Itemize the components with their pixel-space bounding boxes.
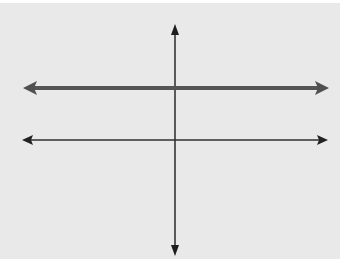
- arrow-down-icon: [171, 245, 179, 256]
- thick-horizontal-line: [23, 81, 329, 95]
- diagram-svg: [0, 0, 340, 259]
- arrow-up-icon: [171, 24, 179, 35]
- diagram-canvas: [0, 0, 340, 259]
